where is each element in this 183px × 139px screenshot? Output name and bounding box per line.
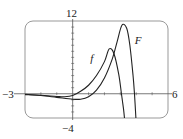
x-max-label: 6 [172,88,178,100]
y-min-label: −4 [62,122,74,134]
curve-f [25,48,124,118]
y-max-label: 12 [66,7,77,19]
chart: −3 6 12 −4 fF [0,0,183,139]
curves [25,24,136,118]
axes [14,19,172,120]
curve-F-antiderivative [25,24,136,118]
plot-frame [25,21,168,118]
curve-label-F: F [134,34,142,46]
curve-label-f: f [90,52,95,64]
x-min-label: −3 [2,88,14,100]
